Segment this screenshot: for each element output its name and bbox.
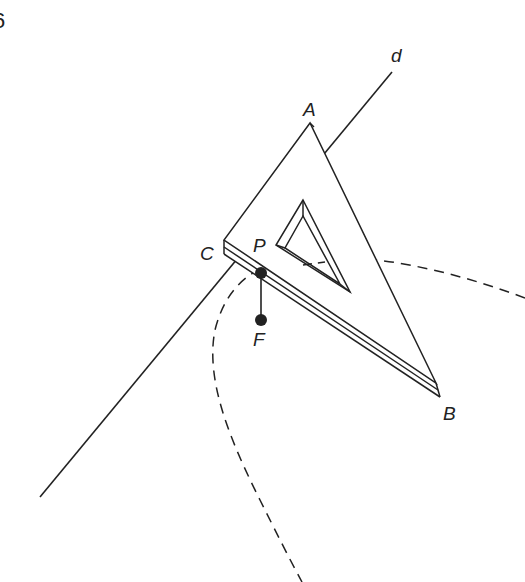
label-a: A <box>303 100 316 119</box>
corner-glyph: 6 <box>0 10 5 32</box>
diagram-canvas: 6 d A C P F B <box>0 0 525 582</box>
label-f: F <box>253 330 265 349</box>
point-f <box>255 314 267 326</box>
label-b: B <box>443 404 456 423</box>
set-square <box>224 123 440 397</box>
label-c: C <box>200 244 214 263</box>
point-p <box>255 267 267 279</box>
label-p: P <box>253 236 266 255</box>
label-d: d <box>391 46 402 65</box>
diagram-svg <box>0 0 525 582</box>
